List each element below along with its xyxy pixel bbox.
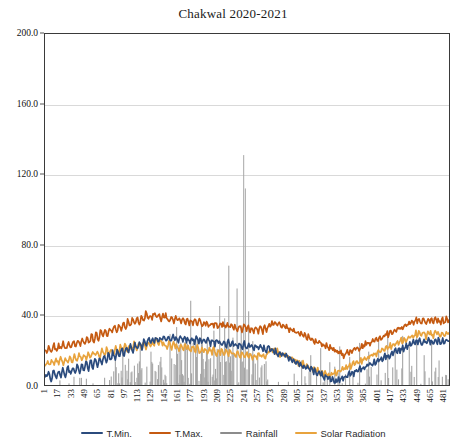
chart-legend: T.Min.T.Max.RainfallSolar Radiation bbox=[0, 424, 466, 442]
legend-label: T.Max. bbox=[175, 428, 203, 439]
chart-title: Chakwal 2020-2021 bbox=[0, 6, 466, 22]
x-axis-tick-label: 1 bbox=[40, 389, 49, 394]
x-axis-tick-label: 65 bbox=[93, 389, 102, 398]
x-axis-tick-label: 481 bbox=[439, 389, 448, 403]
legend-swatch bbox=[81, 432, 103, 435]
y-axis-tick-label: 0.0 bbox=[26, 381, 38, 391]
x-axis-tick-label: 209 bbox=[213, 389, 222, 403]
legend-item[interactable]: Rainfall bbox=[220, 428, 278, 439]
x-axis-tick-label: 257 bbox=[252, 389, 261, 403]
x-axis-tick-label: 401 bbox=[372, 389, 381, 403]
x-axis-tick-label: 449 bbox=[412, 389, 421, 403]
x-axis-tick-label: 289 bbox=[279, 389, 288, 403]
x-axis-tick-label: 177 bbox=[186, 389, 195, 403]
legend-item[interactable]: T.Max. bbox=[149, 428, 203, 439]
x-axis: 1173349658197113129145161177193209225241… bbox=[44, 387, 450, 429]
x-axis-tick-label: 113 bbox=[133, 389, 142, 402]
x-axis-tick-label: 49 bbox=[79, 389, 88, 398]
x-axis-tick-label: 385 bbox=[359, 389, 368, 403]
x-axis-tick-label: 433 bbox=[399, 389, 408, 403]
x-axis-tick-label: 145 bbox=[159, 389, 168, 403]
y-axis-tick-label: 80.0 bbox=[21, 240, 38, 250]
x-axis-tick-label: 417 bbox=[386, 389, 395, 403]
y-axis-tick-label: 120.0 bbox=[17, 169, 38, 179]
y-axis-tick-label: 160.0 bbox=[17, 99, 38, 109]
chart-container: Chakwal 2020-2021 0.040.080.0120.0160.02… bbox=[0, 0, 466, 447]
y-axis-tick-label: 200.0 bbox=[17, 28, 38, 38]
x-axis-tick-label: 369 bbox=[346, 389, 355, 403]
y-axis-tick-label: 40.0 bbox=[21, 310, 38, 320]
x-axis-tick-label: 353 bbox=[332, 389, 341, 403]
y-axis: 0.040.080.0120.0160.0200.0 bbox=[0, 33, 44, 386]
legend-swatch bbox=[295, 432, 317, 435]
x-axis-tick-label: 97 bbox=[119, 389, 128, 398]
x-axis-tick-label: 321 bbox=[306, 389, 315, 403]
x-axis-tick-label: 129 bbox=[146, 389, 155, 403]
legend-item[interactable]: Solar Radiation bbox=[295, 428, 386, 439]
x-axis-tick-label: 17 bbox=[53, 389, 62, 398]
x-axis-tick-label: 161 bbox=[173, 389, 182, 403]
legend-label: T.Min. bbox=[107, 428, 132, 439]
legend-swatch bbox=[149, 432, 171, 435]
x-axis-tick-label: 193 bbox=[199, 389, 208, 403]
plot-area bbox=[44, 33, 450, 386]
x-axis-tick-label: 225 bbox=[226, 389, 235, 403]
x-axis-tick-label: 273 bbox=[266, 389, 275, 403]
legend-swatch bbox=[220, 432, 242, 435]
legend-item[interactable]: T.Min. bbox=[81, 428, 132, 439]
x-axis-tick-label: 305 bbox=[292, 389, 301, 403]
x-axis-tick-label: 241 bbox=[239, 389, 248, 403]
x-axis-tick-label: 81 bbox=[106, 389, 115, 398]
x-axis-tick-label: 33 bbox=[66, 389, 75, 398]
x-axis-tick-label: 337 bbox=[319, 389, 328, 403]
x-axis-tick-label: 465 bbox=[426, 389, 435, 403]
plot-svg bbox=[45, 34, 449, 385]
legend-label: Solar Radiation bbox=[321, 428, 386, 439]
legend-label: Rainfall bbox=[246, 428, 278, 439]
